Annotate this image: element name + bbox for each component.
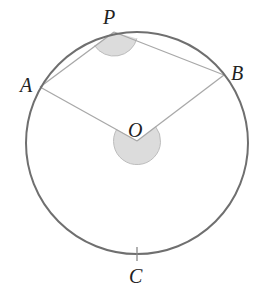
label-p: P bbox=[102, 6, 115, 28]
segment-ob bbox=[137, 75, 224, 141]
circle-theorem-diagram: P A B O C bbox=[0, 0, 260, 290]
segment-pb bbox=[114, 32, 224, 75]
segment-oa bbox=[40, 87, 137, 141]
segment-pa bbox=[40, 32, 114, 87]
label-a: A bbox=[18, 74, 33, 96]
label-c: C bbox=[129, 265, 143, 287]
label-b: B bbox=[231, 62, 243, 84]
label-o: O bbox=[128, 119, 142, 141]
